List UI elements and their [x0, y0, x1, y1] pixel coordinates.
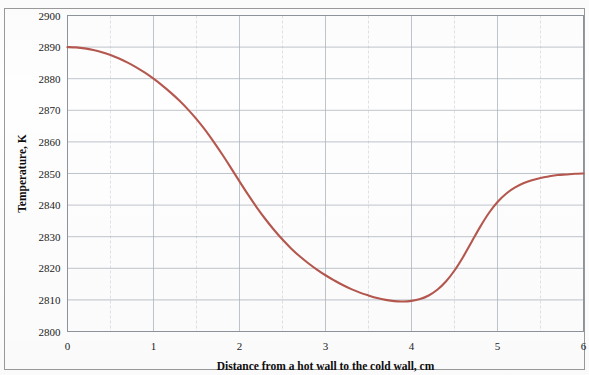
y-tick-label: 2860	[39, 136, 62, 148]
x-tick-label: 6	[581, 340, 587, 352]
x-tick-label: 0	[65, 340, 71, 352]
y-tick-label: 2900	[39, 10, 62, 22]
x-tick-label: 3	[323, 340, 329, 352]
y-tick-label: 2820	[39, 262, 62, 274]
y-tick-label: 2850	[39, 168, 62, 180]
x-tick-label: 4	[409, 340, 415, 352]
y-tick-label: 2830	[39, 231, 62, 243]
major-gridlines	[68, 16, 584, 332]
x-tick-label: 5	[495, 340, 501, 352]
x-axis-title: Distance from a hot wall to the cold wal…	[217, 360, 435, 372]
y-tick-label: 2890	[39, 41, 62, 53]
y-tick-label: 2870	[39, 104, 62, 116]
y-axis-tick-labels: 2800281028202830284028502860287028802890…	[39, 10, 62, 338]
y-tick-label: 2800	[39, 326, 62, 338]
x-axis-tick-labels: 0123456	[65, 340, 587, 352]
y-axis-title: Temperature, K	[16, 134, 29, 213]
y-tick-label: 2810	[39, 294, 62, 306]
chart-figure: 2800281028202830284028502860287028802890…	[0, 0, 589, 375]
x-tick-label: 1	[151, 340, 157, 352]
y-tick-label: 2880	[39, 73, 62, 85]
x-tick-label: 2	[237, 340, 243, 352]
temperature-profile-chart: 2800281028202830284028502860287028802890…	[0, 0, 589, 375]
y-tick-label: 2840	[39, 199, 62, 211]
